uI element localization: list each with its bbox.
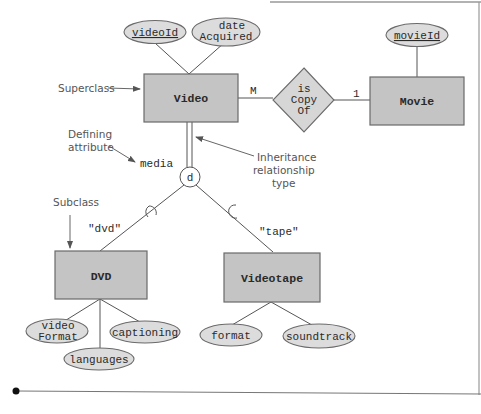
attr-dateAcquired-line2: Acquired (200, 31, 253, 43)
attr-captioning[interactable]: captioning (110, 321, 180, 343)
attr-movieId-label: movieId (394, 30, 440, 42)
annotation-inheritance-line3: type (272, 177, 295, 189)
attr-languages-label: languages (69, 354, 128, 366)
attr-dateAcquired[interactable]: date Acquired (192, 18, 260, 46)
discriminator-dvd: "dvd" (88, 223, 121, 235)
connector-soundtrack (271, 302, 312, 325)
attr-videoId[interactable]: videoId (124, 21, 186, 44)
relationship-isCopyOf[interactable]: is Copy Of (273, 68, 334, 132)
annotation-defining-line2: attribute (68, 141, 114, 153)
cardinality-movie: 1 (353, 88, 360, 100)
entity-movie-label: Movie (400, 95, 435, 108)
attr-languages[interactable]: languages (64, 348, 134, 370)
connector-format (232, 302, 271, 325)
attr-movieId[interactable]: movieId (386, 24, 448, 47)
connector-captioning (100, 299, 140, 322)
attr-format-label: format (211, 330, 251, 342)
specialization-disjoint[interactable]: d (180, 167, 200, 187)
entity-video-label: Video (174, 92, 209, 105)
defining-attribute-media: media (140, 158, 173, 170)
attr-captioning-label: captioning (112, 327, 178, 339)
annotation-defining-line1: Defining (68, 128, 112, 140)
connector-videoFormat (63, 299, 100, 322)
frame-bottom-line (16, 391, 481, 394)
er-diagram: Video Movie DVD Videotape is Copy Of M 1… (0, 0, 481, 414)
discriminator-tape: "tape" (259, 226, 299, 238)
attr-videoFormat[interactable]: video Format (26, 319, 88, 343)
connector-d-dvd (100, 185, 184, 251)
entity-movie[interactable]: Movie (370, 77, 464, 125)
subset-arc-videotape (229, 205, 237, 218)
attr-videoId-label: videoId (132, 27, 178, 39)
arrow-inheritance-type (196, 137, 254, 156)
bullet-dot (13, 388, 20, 395)
cardinality-video: M (250, 85, 257, 97)
entity-videotape-label: Videotape (241, 272, 303, 285)
entity-video[interactable]: Video (144, 74, 238, 122)
connector-videoId (155, 43, 189, 74)
entity-videotape[interactable]: Videotape (224, 253, 320, 302)
attr-videoFormat-line2: Format (38, 331, 78, 343)
entity-dvd-label: DVD (91, 270, 112, 283)
annotation-superclass: Superclass (58, 82, 115, 94)
attr-soundtrack-label: soundtrack (286, 331, 352, 343)
rel-label-line3: Of (297, 105, 310, 117)
attr-soundtrack[interactable]: soundtrack (283, 324, 355, 348)
attr-format[interactable]: format (200, 324, 262, 346)
annotation-inheritance-line2: relationship (253, 164, 315, 176)
entity-dvd[interactable]: DVD (55, 251, 147, 299)
annotation-subclass: Subclass (53, 196, 99, 208)
annotation-inheritance-line1: Inheritance (257, 151, 317, 163)
specialization-symbol: d (187, 172, 194, 184)
connector-dateAcquired (189, 43, 224, 74)
